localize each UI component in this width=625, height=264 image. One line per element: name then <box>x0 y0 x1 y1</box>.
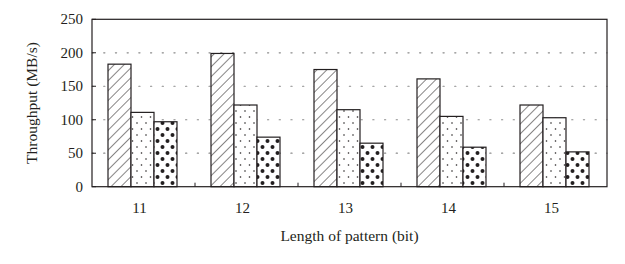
bar <box>211 53 234 186</box>
x-tick-label: 14 <box>441 200 457 216</box>
bar-group-13 <box>314 70 383 187</box>
bar <box>417 79 440 187</box>
bar <box>234 105 257 187</box>
bar <box>360 143 383 187</box>
bar <box>543 118 566 187</box>
y-tick-label: 200 <box>61 45 84 61</box>
y-axis-title: Throughput (MB/s) <box>23 42 41 164</box>
bar <box>131 112 154 186</box>
bar <box>257 137 280 187</box>
x-tick-label: 15 <box>544 200 559 216</box>
x-tick-label: 13 <box>338 200 353 216</box>
bar <box>108 64 131 187</box>
bar <box>566 152 589 187</box>
bars <box>108 53 589 186</box>
bar <box>337 110 360 187</box>
x-tick-label: 11 <box>132 200 146 216</box>
y-tick-label: 0 <box>76 179 84 195</box>
x-axis-title: Length of pattern (bit) <box>280 227 418 245</box>
bar <box>314 70 337 187</box>
throughput-bar-chart: 050100150200250 1112131415 Length of pat… <box>0 0 625 264</box>
y-tick-labels: 050100150200250 <box>61 11 84 194</box>
x-tick-labels: 1112131415 <box>132 200 559 216</box>
bar <box>463 147 486 187</box>
bar <box>440 116 463 186</box>
y-tick-label: 150 <box>61 78 84 94</box>
y-tick-label: 250 <box>61 11 84 27</box>
bar-group-15 <box>520 105 589 187</box>
bar-group-14 <box>417 79 486 187</box>
bar <box>154 122 177 187</box>
y-tick-label: 50 <box>68 145 83 161</box>
x-tick-label: 12 <box>235 200 250 216</box>
bar <box>520 105 543 187</box>
y-tick-label: 100 <box>61 112 84 128</box>
bar-group-12 <box>211 53 280 186</box>
bar-group-11 <box>108 64 177 187</box>
